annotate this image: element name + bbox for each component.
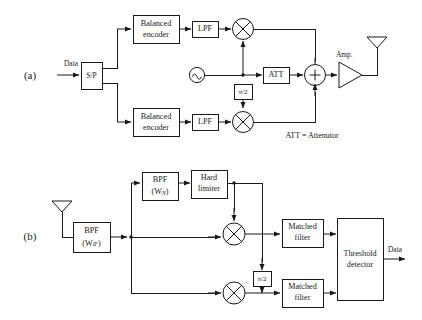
threshold-detector-line2: detector (347, 260, 374, 269)
wire-amp-to-antenna (362, 47, 377, 75)
oscillator-icon (189, 67, 204, 82)
panel-b-group: (b) BPF (WIF) BPF (WN) (24, 170, 405, 307)
matched-filter-bottom-line1: Matched (288, 282, 317, 291)
bpf-if-line2: (WIF) (82, 238, 101, 247)
summer-block (305, 65, 326, 86)
mixer-top-panel-a (233, 19, 254, 40)
wire-mixer-bottom-to-sum (254, 92, 316, 122)
panel-a-group: (a) Data S/P Balanced encoder LPF (24, 15, 387, 140)
antenna-icon-a (367, 37, 387, 48)
wire-mixer-top-to-sum (254, 29, 316, 62)
antenna-icon-b (52, 201, 72, 212)
amplifier-label: Amp. (336, 50, 353, 59)
panel-a-data-input-label: Data (64, 59, 79, 68)
att-block-label: ATT (268, 70, 283, 79)
balanced-encoder-bottom-line1: Balanced (141, 112, 171, 121)
matched-filter-top-line1: Matched (288, 222, 317, 231)
att-legend-note: ATT = Attenutor (285, 131, 339, 140)
mixer-top-panel-b (223, 223, 245, 245)
bpf-n-line2: (WN) (152, 187, 169, 196)
hard-limiter-line1: Hard (201, 173, 217, 182)
wire-antenna-to-bpf-if (62, 212, 73, 237)
phase-shift-label-a: π/2 (239, 88, 248, 96)
panel-a-label: (a) (24, 69, 37, 82)
bpf-if-line2-suffix: ) (98, 238, 101, 247)
block-diagram-figure: (a) Data S/P Balanced encoder LPF (0, 0, 422, 320)
wire-limiter-to-phase-b (234, 183, 262, 262)
bpf-if-line1: BPF (84, 226, 99, 235)
balanced-encoder-bottom-line2: encoder (143, 123, 169, 132)
panel-b-data-output-label: Data (388, 245, 403, 254)
threshold-detector-line1: Threshold (343, 249, 376, 258)
panel-b-label: (b) (24, 230, 37, 243)
phase-shift-label-b: π/2 (258, 275, 267, 283)
bpf-n-line2-suffix: ) (166, 187, 169, 196)
mixer-bottom-panel-b (223, 282, 245, 304)
wire-sp-lower (102, 83, 117, 122)
matched-filter-top-line2: filter (295, 233, 311, 242)
balanced-encoder-top-line2: encoder (143, 30, 169, 39)
matched-filter-bottom-line2: filter (295, 293, 311, 302)
wire-sp-upper (102, 29, 117, 68)
wire-limiter-to-mixer-top-b (227, 183, 234, 212)
mixer-bottom-panel-a (233, 112, 254, 133)
wire-bus-down (131, 237, 218, 293)
diagram-canvas: (a) Data S/P Balanced encoder LPF (0, 0, 422, 320)
bpf-n-line1: BPF (153, 175, 168, 184)
amplifier-block (339, 62, 362, 88)
bpf-n-line2-prefix: (W (152, 187, 163, 196)
hard-limiter-line2: limiter (198, 184, 220, 193)
lpf-bottom-label: LPF (198, 117, 213, 126)
lpf-top-label: LPF (198, 24, 213, 33)
balanced-encoder-top-line1: Balanced (141, 19, 171, 28)
sp-block-label: S/P (86, 71, 96, 80)
bpf-if-line2-prefix: (W (82, 238, 93, 247)
